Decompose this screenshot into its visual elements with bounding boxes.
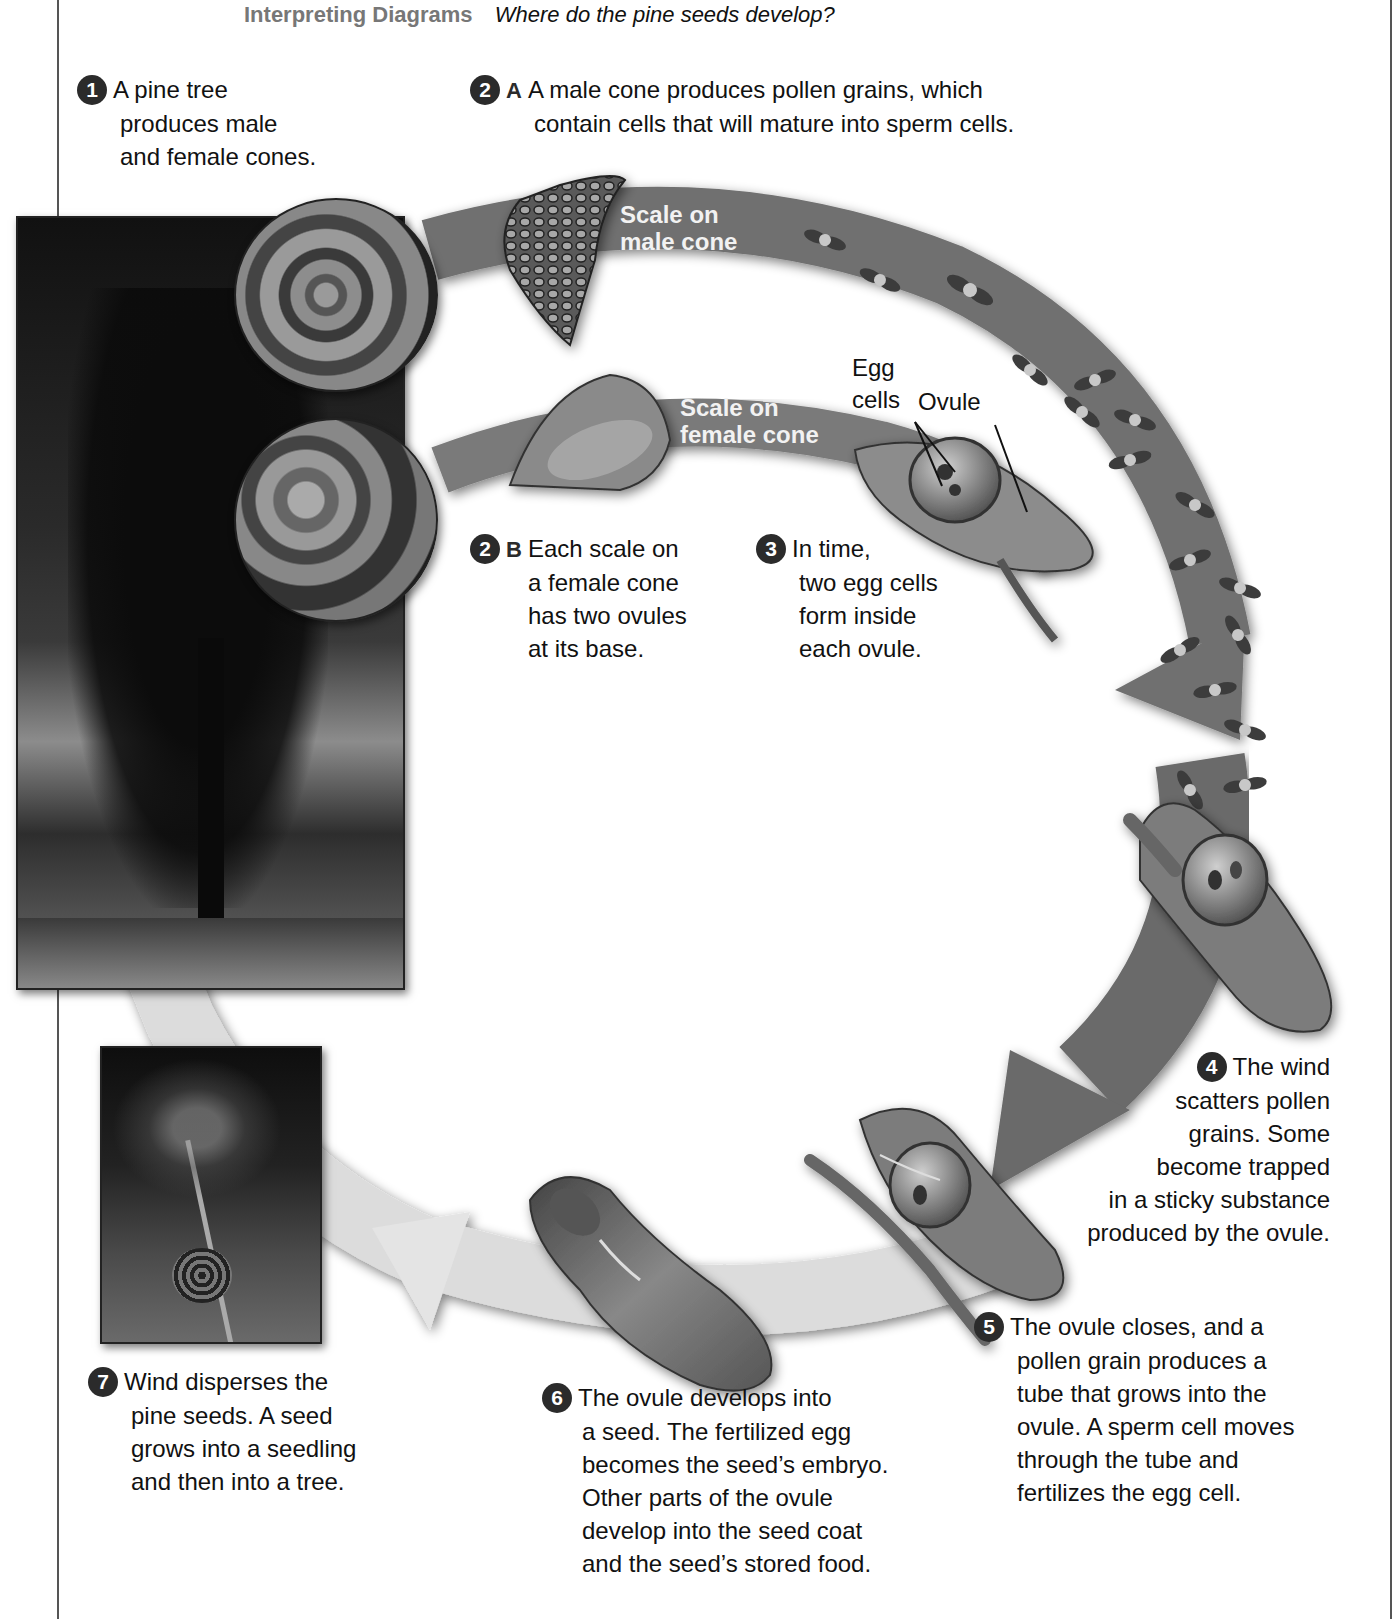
step-letter: B bbox=[506, 537, 522, 562]
step-number-badge: 6 bbox=[542, 1383, 572, 1413]
step-2b: 2BEach scale on a female cone has two ov… bbox=[470, 532, 687, 665]
step-number-badge: 2 bbox=[470, 534, 500, 564]
step-3: 3In time, two egg cells form inside each… bbox=[756, 532, 938, 665]
female-cone-scale bbox=[510, 375, 670, 492]
step-2a: 2AA male cone produces pollen grains, wh… bbox=[470, 73, 1014, 140]
step-number-badge: 3 bbox=[756, 534, 786, 564]
male-cone-scale bbox=[504, 176, 625, 345]
pine-cone-on-ground bbox=[172, 1248, 232, 1303]
step-number-badge: 4 bbox=[1197, 1052, 1227, 1082]
step-number-badge: 7 bbox=[88, 1367, 118, 1397]
step-number-badge: 5 bbox=[974, 1312, 1004, 1342]
step-number-badge: 1 bbox=[77, 75, 107, 105]
ovule-label: Ovule bbox=[918, 388, 981, 415]
egg-cells-label: Egg cells bbox=[852, 352, 900, 416]
step-4: 4The wind scatters pollen grains. Some b… bbox=[1087, 1050, 1330, 1249]
step-1: 1A pine tree produces male and female co… bbox=[77, 73, 316, 173]
ground bbox=[18, 918, 403, 988]
male-scale-label: Scale on male cone bbox=[620, 201, 737, 255]
step-7: 7Wind disperses the pine seeds. A seed g… bbox=[88, 1365, 356, 1498]
pine-seedling-photo bbox=[100, 1046, 322, 1344]
male-cones-photo bbox=[234, 198, 438, 392]
step-letter: A bbox=[506, 78, 522, 103]
female-cones-photo bbox=[234, 418, 438, 622]
seedling-needles bbox=[112, 1058, 282, 1198]
step-number-badge: 2 bbox=[470, 75, 500, 105]
female-scale-label: Scale on female cone bbox=[680, 394, 819, 448]
step-6: 6The ovule develops into a seed. The fer… bbox=[542, 1381, 888, 1580]
step-5: 5The ovule closes, and a pollen grain pr… bbox=[974, 1310, 1294, 1509]
